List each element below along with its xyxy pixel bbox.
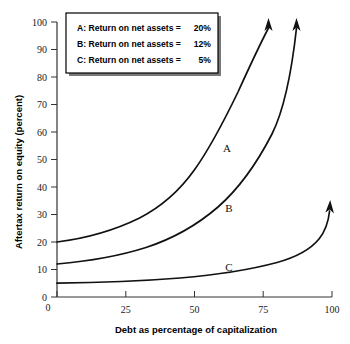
arrowheads-group	[264, 18, 334, 214]
y-tick-label-20: 20	[37, 237, 47, 248]
legend-item-b-value: 12%	[194, 39, 212, 49]
curve-c-path	[57, 211, 330, 283]
legend-item-b-label: B: Return on net assets =	[77, 39, 181, 49]
curve-label-a: A	[223, 142, 231, 154]
y-axis-title: Aftertax return on equity (percent)	[13, 95, 24, 249]
x-tick-label-50: 50	[190, 304, 200, 315]
y-tick-label-70: 70	[37, 99, 47, 110]
curve-label-c: C	[225, 261, 232, 273]
y-tick-label-40: 40	[37, 182, 47, 193]
y-tick-label-50: 50	[37, 154, 47, 165]
x-tick-label-25: 25	[121, 304, 131, 315]
x-axis-title: Debt as percentage of capitalization	[115, 324, 277, 335]
y-tick-label-80: 80	[37, 72, 47, 83]
y-tick-label-90: 90	[37, 44, 47, 55]
legend: A: Return on net assets = 20% B: Return …	[66, 13, 221, 76]
curve-label-b: B	[225, 202, 232, 214]
y-tick-label-30: 30	[37, 209, 47, 220]
y-tick-label-100: 100	[32, 17, 47, 28]
chart-svg: 100 90 80 70 60 50 40 30 20 10 0 0 25 50…	[0, 0, 350, 344]
x-axis-tick-labels: 0 25 50 75 100	[46, 302, 340, 315]
y-axis-tick-labels: 100 90 80 70 60 50 40 30 20 10 0	[32, 17, 47, 303]
legend-item-c-label: C: Return on net assets =	[77, 55, 181, 65]
y-tick-label-0: 0	[42, 292, 47, 303]
x-tick-label-100: 100	[325, 304, 340, 315]
y-tick-label-60: 60	[37, 127, 47, 138]
legend-item-a-value: 20%	[194, 23, 212, 33]
curve-labels-group: A B C	[223, 142, 233, 273]
y-tick-label-10: 10	[37, 264, 47, 275]
legend-item-a-label: A: Return on net assets =	[77, 23, 181, 33]
legend-item-c-value: 5%	[199, 55, 212, 65]
x-axis-ticks	[57, 291, 332, 297]
chart-container: 100 90 80 70 60 50 40 30 20 10 0 0 25 50…	[0, 0, 350, 344]
x-tick-label-75: 75	[258, 304, 268, 315]
x-tick-label-0: 0	[46, 302, 51, 313]
y-axis-ticks	[51, 22, 57, 297]
